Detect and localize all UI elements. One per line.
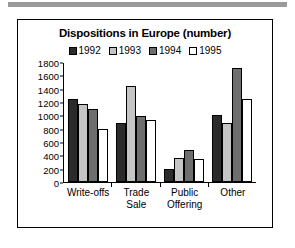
y-tick-mark (60, 116, 64, 117)
legend-label: 1993 (119, 45, 141, 56)
chart-frame: Dispositions in Europe (number) 19921993… (17, 19, 273, 228)
legend-swatch-icon (69, 47, 77, 55)
bar-1992 (164, 169, 174, 182)
bar-1994 (88, 109, 98, 182)
chart-page: Dispositions in Europe (number) 19921993… (0, 0, 295, 248)
bar-1995 (242, 99, 252, 182)
legend-label: 1994 (159, 45, 181, 56)
x-axis-label-line: Other (220, 187, 245, 198)
chart-legend: 1992199319941995 (18, 45, 272, 56)
bar-group-trade-sale (112, 63, 160, 182)
y-tick-mark (60, 142, 64, 143)
x-axis-label-line: Public (171, 187, 198, 198)
y-tick-mark (60, 129, 64, 130)
bar-1993 (222, 123, 232, 183)
y-tick-mark (60, 102, 64, 103)
legend-swatch-icon (109, 47, 117, 55)
bar-1992 (116, 123, 126, 182)
legend-label: 1995 (199, 45, 221, 56)
bar-1993 (174, 158, 184, 182)
legend-item-1992: 1992 (69, 45, 101, 56)
x-axis-label-line: Offering (167, 199, 202, 210)
bar-1995 (194, 159, 204, 182)
y-tick-mark (60, 156, 64, 157)
y-tick-mark (60, 63, 64, 64)
bar-1995 (98, 129, 108, 182)
x-axis-label-line: Write-offs (67, 187, 109, 198)
x-axis-label-line: Sale (126, 199, 146, 210)
chart-title: Dispositions in Europe (number) (18, 27, 272, 39)
bar-group-public-offering (160, 63, 208, 182)
bar-1994 (232, 68, 242, 182)
x-axis-labels: Write-offsTradeSalePublicOfferingOther (64, 187, 257, 211)
bar-1993 (126, 86, 136, 182)
bar-1995 (146, 120, 156, 182)
x-axis-label: Other (209, 187, 257, 211)
y-tick-mark (60, 89, 64, 90)
x-axis-label: PublicOffering (161, 187, 209, 211)
bar-1993 (78, 104, 88, 182)
legend-item-1994: 1994 (149, 45, 181, 56)
top-gray-band (8, 2, 287, 7)
x-axis-label-line: Trade (123, 187, 149, 198)
x-axis-label: Write-offs (64, 187, 112, 211)
bar-group-other (208, 63, 256, 182)
legend-swatch-icon (149, 47, 157, 55)
bar-1994 (136, 116, 146, 182)
y-tick-mark (60, 76, 64, 77)
legend-item-1995: 1995 (189, 45, 221, 56)
bar-group-write-offs (64, 63, 112, 182)
y-tick-mark (60, 183, 64, 184)
legend-item-1993: 1993 (109, 45, 141, 56)
plot-area: 180016001400120010008006004002000 (63, 63, 256, 183)
legend-swatch-icon (189, 47, 197, 55)
bar-1992 (212, 115, 222, 182)
legend-label: 1992 (79, 45, 101, 56)
bar-groups (64, 63, 256, 182)
bar-1992 (68, 99, 78, 182)
bar-1994 (184, 150, 194, 182)
y-tick-mark (60, 169, 64, 170)
x-axis-label: TradeSale (112, 187, 160, 211)
